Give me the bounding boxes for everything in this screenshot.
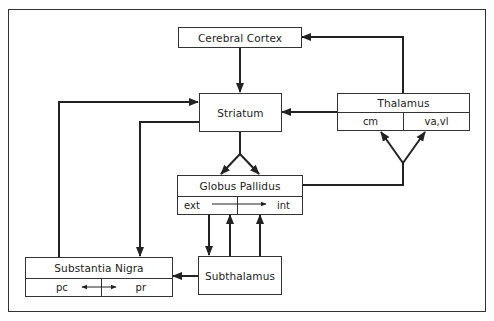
node-substantia-nigra: Substantia Nigra pc pr	[25, 257, 173, 297]
gp-int: int	[237, 197, 303, 214]
thalamus-cm: cm	[338, 113, 403, 130]
node-label: Globus Pallidus	[178, 176, 302, 196]
node-striatum: Striatum	[199, 93, 282, 132]
node-globus-pallidus: Globus Pallidus ext int	[177, 175, 303, 215]
node-label: Substantia Nigra	[26, 258, 172, 278]
node-subthalamus: Subthalamus	[198, 256, 282, 295]
node-label: Striatum	[200, 94, 281, 131]
gp-ext: ext	[178, 197, 237, 214]
edge-gp-thalamus-cm	[381, 132, 403, 163]
sn-pr: pr	[101, 279, 173, 296]
edge-striatum-gp-int	[240, 154, 259, 174]
edge-gp-thalamus-vavl	[403, 132, 425, 163]
node-label: Thalamus	[338, 94, 469, 112]
node-thalamus: Thalamus cm va,vl	[337, 93, 470, 131]
thalamus-vavl: va,vl	[403, 113, 469, 130]
sn-pc: pc	[26, 279, 101, 296]
edge-striatum-gp-ext	[221, 154, 240, 174]
edge-thalamus-cortex	[302, 37, 403, 93]
node-cerebral-cortex: Cerebral Cortex	[178, 27, 302, 48]
node-label: Cerebral Cortex	[179, 28, 301, 47]
node-label: Subthalamus	[199, 257, 281, 294]
